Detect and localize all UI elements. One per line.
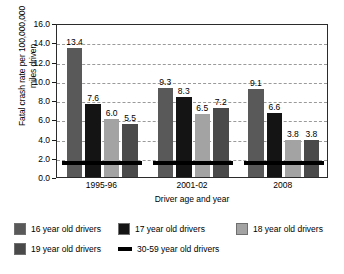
bar[interactable]	[304, 140, 320, 177]
bar[interactable]	[104, 119, 120, 177]
y-axis-tick-label: 2.0	[38, 154, 50, 163]
y-axis-tick-label: 16.0	[33, 20, 50, 29]
legend-item[interactable]: 30-59 year old drivers	[118, 239, 219, 259]
y-axis-tick-label: 10.0	[33, 77, 50, 86]
legend-label: 17 year old drivers	[135, 224, 205, 234]
legend: 16 year old drivers17 year old drivers18…	[14, 219, 332, 259]
legend-color-swatch	[118, 223, 130, 235]
bar[interactable]	[285, 140, 301, 177]
bar-value-label: 6.0	[106, 109, 118, 118]
bar-value-label: 13.4	[66, 38, 83, 47]
bar-slot: 5.5	[121, 25, 140, 177]
bar-groups: 13.47.66.05.59.38.36.57.29.16.63.83.8	[57, 25, 327, 177]
bar-group: 9.16.63.83.8	[247, 25, 321, 177]
fatal-crash-rate-bar-chart: Fatal crash rate per 100,000,000 miles d…	[0, 0, 344, 274]
legend-label: 19 year old drivers	[31, 244, 101, 254]
x-axis-title: Driver age and year	[56, 194, 328, 204]
bar-group: 9.38.36.57.2	[156, 25, 230, 177]
y-axis-tick-labels: 0.02.04.06.08.010.012.014.016.0	[18, 24, 52, 178]
reference-line-30-59	[62, 161, 142, 165]
bar-value-label: 7.6	[87, 94, 99, 103]
legend-row-1: 16 year old drivers17 year old drivers18…	[14, 219, 332, 239]
bar-value-label: 6.6	[268, 103, 280, 112]
y-axis-tick-label: 14.0	[33, 39, 50, 48]
bar-value-label: 3.8	[287, 130, 299, 139]
x-axis-tick-labels: 1995-962001-022008	[56, 180, 328, 192]
legend-item[interactable]: 18 year old drivers	[236, 219, 323, 239]
legend-row-2: 19 year old drivers30-59 year old driver…	[14, 239, 332, 259]
bar-slot: 8.3	[175, 25, 194, 177]
legend-color-swatch	[14, 243, 26, 255]
bar[interactable]	[213, 108, 229, 177]
y-axis-tick-label: 0.0	[38, 174, 50, 183]
reference-line-30-59	[244, 161, 324, 165]
bar-slot: 7.6	[84, 25, 103, 177]
legend-label: 16 year old drivers	[31, 224, 101, 234]
legend-line-swatch	[118, 247, 132, 251]
bar[interactable]	[176, 97, 192, 177]
bar-slot: 9.1	[247, 25, 266, 177]
bar[interactable]	[267, 113, 283, 177]
legend-item[interactable]: 17 year old drivers	[118, 219, 205, 239]
bar-value-label: 9.3	[159, 78, 171, 87]
bars: 13.47.66.05.5	[65, 25, 139, 177]
bar-group: 13.47.66.05.5	[65, 25, 139, 177]
bar-value-label: 5.5	[124, 114, 136, 123]
legend-color-swatch	[14, 223, 26, 235]
bar-slot: 9.3	[156, 25, 175, 177]
bar-slot: 3.8	[284, 25, 303, 177]
bar-slot: 6.5	[193, 25, 212, 177]
bar-value-label: 8.3	[178, 87, 190, 96]
legend-item[interactable]: 16 year old drivers	[14, 219, 101, 239]
bars: 9.38.36.57.2	[156, 25, 230, 177]
x-axis-tick-label: 1995-96	[86, 180, 117, 190]
y-axis-tick-mark	[52, 178, 56, 179]
bar-slot: 13.4	[65, 25, 84, 177]
bar-slot: 6.0	[102, 25, 121, 177]
x-axis-tick-label: 2008	[273, 180, 292, 190]
bar[interactable]	[122, 124, 138, 177]
bar-value-label: 9.1	[250, 79, 262, 88]
legend-label: 30-59 year old drivers	[137, 244, 219, 254]
legend-color-swatch	[236, 223, 248, 235]
bar[interactable]	[67, 48, 83, 177]
bar-slot: 7.2	[212, 25, 231, 177]
bar-slot: 3.8	[302, 25, 321, 177]
bars: 9.16.63.83.8	[247, 25, 321, 177]
y-axis-tick-label: 12.0	[33, 58, 50, 67]
x-axis-tick-label: 2001-02	[176, 180, 207, 190]
plot-area: 13.47.66.05.59.38.36.57.29.16.63.83.8	[56, 24, 328, 178]
bar-value-label: 7.2	[215, 98, 227, 107]
bar[interactable]	[195, 114, 211, 177]
legend-item[interactable]: 19 year old drivers	[14, 239, 101, 259]
reference-line-30-59	[153, 161, 233, 165]
y-axis-tick-label: 6.0	[38, 116, 50, 125]
y-axis-tick-label: 8.0	[38, 97, 50, 106]
legend-label: 18 year old drivers	[253, 224, 323, 234]
y-axis-tick-label: 4.0	[38, 135, 50, 144]
bar-slot: 6.6	[265, 25, 284, 177]
bar-value-label: 3.8	[305, 130, 317, 139]
bar[interactable]	[85, 104, 101, 177]
bar-value-label: 6.5	[196, 104, 208, 113]
